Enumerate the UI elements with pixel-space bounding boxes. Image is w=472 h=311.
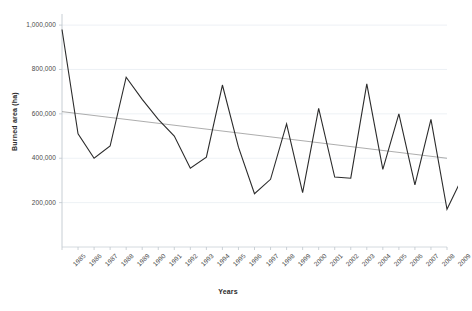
trend-line <box>62 112 447 159</box>
gridlines <box>62 25 447 203</box>
y-tick-marks <box>59 25 62 203</box>
x-axis-title: Years <box>178 288 278 295</box>
y-tick-label: 200,000 <box>10 199 56 206</box>
data-series-line <box>62 30 458 210</box>
y-axis-title: Burned area (ha) <box>11 82 18 162</box>
x-tick-label: 2009 <box>456 252 471 267</box>
x-tick-marks <box>62 247 447 250</box>
y-tick-label: 800,000 <box>10 65 56 72</box>
axis-lines <box>62 14 447 247</box>
y-tick-label: 1,000,000 <box>10 21 56 28</box>
